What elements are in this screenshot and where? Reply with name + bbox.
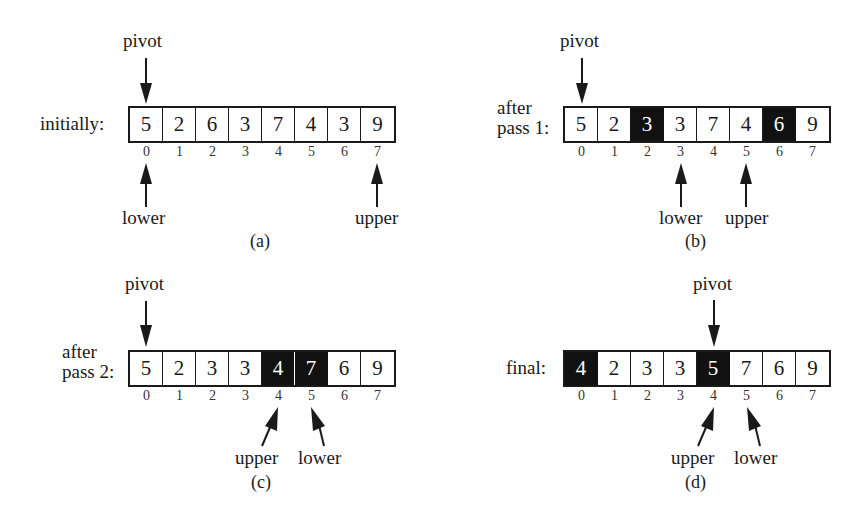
lower-label: lower bbox=[298, 448, 341, 467]
panel-caption: (b) bbox=[685, 231, 706, 252]
upper-arrow-icon bbox=[262, 407, 278, 446]
pointer-arrows bbox=[433, 260, 866, 519]
pivot-arrow-icon bbox=[140, 58, 152, 104]
lower-arrow-icon bbox=[675, 163, 687, 207]
panel-c: pivot after pass 2: 5 2 3 3 4 7 6 9 0 1 … bbox=[0, 260, 433, 519]
panel-d: pivot final: 4 2 3 3 5 7 6 9 0 1 2 3 4 5… bbox=[433, 260, 866, 519]
lower-label: lower bbox=[659, 208, 702, 227]
upper-arrow-icon bbox=[698, 407, 714, 446]
upper-label: upper bbox=[725, 208, 768, 227]
pivot-arrow-icon bbox=[140, 301, 152, 347]
pivot-arrow-icon bbox=[576, 58, 588, 104]
panel-caption: (c) bbox=[251, 472, 271, 493]
panel-b: pivot after pass 1: 5 2 3 3 7 4 6 9 0 1 … bbox=[433, 0, 866, 259]
upper-arrow-icon bbox=[371, 163, 383, 207]
lower-label: lower bbox=[122, 208, 165, 227]
upper-label: upper bbox=[355, 208, 398, 227]
pointer-arrows bbox=[0, 260, 433, 519]
lower-arrow-icon bbox=[747, 407, 761, 446]
lower-arrow-icon bbox=[311, 407, 325, 446]
upper-arrow-icon bbox=[740, 163, 752, 207]
pointer-arrows bbox=[433, 0, 866, 259]
pivot-arrow-icon bbox=[708, 300, 720, 347]
lower-arrow-icon bbox=[140, 163, 152, 207]
upper-label: upper bbox=[235, 448, 278, 467]
panel-caption: (d) bbox=[685, 472, 706, 493]
panel-caption: (a) bbox=[250, 231, 270, 252]
panel-a: pivot initially: 5 2 6 3 7 4 3 9 0 1 2 3… bbox=[0, 0, 433, 259]
upper-label: upper bbox=[671, 448, 714, 467]
lower-label: lower bbox=[734, 448, 777, 467]
